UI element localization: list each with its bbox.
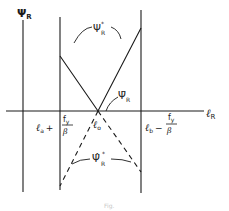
right-boundary-label: ℓb− fy β xyxy=(145,113,177,135)
svg-text:ℓb−: ℓb− xyxy=(145,122,163,134)
svg-text:ℓa+: ℓa+ xyxy=(36,122,53,134)
svg-text:β: β xyxy=(62,127,68,136)
upper-arc-right xyxy=(111,27,121,39)
center-point-label: ℓo xyxy=(93,119,101,131)
y-axis-label: ΨR xyxy=(17,7,32,21)
bar-curve-label: Ψ̄R xyxy=(118,90,130,103)
lower-arc-right xyxy=(111,159,131,162)
svg-text:β: β xyxy=(166,126,172,135)
bar-leader xyxy=(106,97,118,111)
svg-text:fy: fy xyxy=(63,115,70,126)
x-axis-label: ℓR xyxy=(206,107,216,121)
lower-arc-left xyxy=(72,159,90,164)
svg-text:fy: fy xyxy=(168,113,175,124)
upper-curve-label: ΨR* xyxy=(93,20,105,36)
upper-arc xyxy=(74,27,92,43)
diagram-canvas: ΨR ℓR ΨR* Ψ̄R Ψ̂R* ℓo ℓa+ fy β ℓb− fy xyxy=(0,0,229,211)
lower-curve-label: Ψ̂R* xyxy=(92,150,105,167)
left-boundary-label: ℓa+ fy β xyxy=(36,115,73,136)
figure-caption: Fig. xyxy=(104,202,114,210)
